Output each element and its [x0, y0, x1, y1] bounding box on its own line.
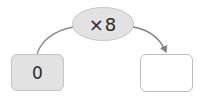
input-box: 0 [11, 54, 64, 91]
operator-label: ×8 [89, 14, 118, 35]
input-value: 0 [32, 63, 43, 83]
output-box[interactable] [140, 54, 193, 92]
operator-bubble: ×8 [72, 7, 134, 41]
output-arrow-line [133, 27, 166, 52]
function-machine-diagram: ×8 0 [0, 0, 200, 102]
input-connector-line [37, 27, 73, 54]
